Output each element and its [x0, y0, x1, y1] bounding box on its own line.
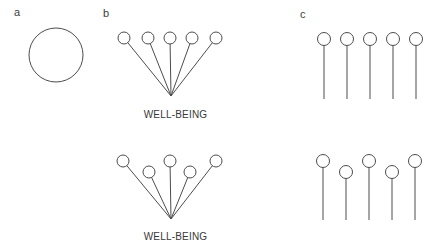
panel-b-label: b	[103, 8, 109, 19]
wellbeing-caption-top: WELL-BEING	[123, 110, 228, 120]
panel-b-fan-top-edge	[170, 38, 171, 96]
panel-c-bottom-node	[340, 166, 353, 179]
panel-c-bottom-node	[409, 155, 422, 168]
panel-b-fan-bottom-node	[164, 155, 176, 167]
wellbeing-caption-bottom: WELL-BEING	[123, 232, 228, 242]
panel-b-fan-bottom-node	[184, 166, 196, 178]
panel-c-top-node	[364, 33, 377, 46]
panel-b-fan-top-node	[118, 32, 130, 44]
panel-b-fan-top-node	[186, 32, 198, 44]
diagram-svg	[0, 0, 441, 251]
panel-c-bottom-node	[317, 155, 330, 168]
panel-a-circle	[29, 28, 83, 82]
figure-canvas: a b c WELL-BEING WELL-BEING	[0, 0, 441, 251]
panel-c-label: c	[300, 9, 306, 20]
panel-b-fan-bottom-edge	[170, 161, 171, 219]
panel-b-fan-top-node	[210, 32, 222, 44]
panel-b-fan-bottom-node	[210, 155, 222, 167]
panel-c-top-node	[410, 33, 423, 46]
panel-c-top-node	[341, 33, 354, 46]
panel-b-fan-top-edge	[171, 38, 192, 96]
panel-b-fan-top-edge	[124, 38, 171, 96]
panel-c-top-node	[387, 33, 400, 46]
panel-b-fan-top-node	[164, 32, 176, 44]
panel-b-fan-bottom-node	[143, 166, 155, 178]
panel-a-label: a	[14, 7, 20, 18]
panel-b-fan-top-edge	[171, 38, 216, 96]
panel-b-fan-top-edge	[148, 38, 171, 96]
panel-b-fan-top-node	[142, 32, 154, 44]
panel-b-fan-bottom-edge	[171, 172, 190, 219]
panel-c-bottom-node	[386, 166, 399, 179]
panel-c-top-node	[318, 33, 331, 46]
panel-c-bottom-node	[363, 155, 376, 168]
panel-b-fan-bottom-node	[117, 155, 129, 167]
panel-b-fan-bottom-edge	[149, 172, 171, 219]
